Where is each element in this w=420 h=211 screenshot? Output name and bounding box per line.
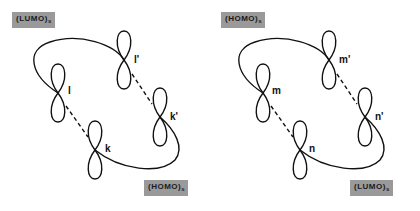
left-panel: (LUMO)s (HOMO)s l l' k k' xyxy=(0,0,210,211)
orbital-label-k: k xyxy=(105,144,111,154)
top-orbital-label: (LUMO)s xyxy=(12,12,55,28)
label-subscript: s xyxy=(181,186,185,192)
top-orbital-label: (HOMO)s xyxy=(221,12,265,28)
bottom-orbital-label: (HOMO)s xyxy=(144,180,188,196)
orbital-label-l: l xyxy=(68,86,71,96)
label-text: (HOMO) xyxy=(148,182,181,191)
orbital-label-n: n xyxy=(309,144,315,154)
label-text: (HOMO) xyxy=(225,14,258,23)
orbital-label-l-prime: l' xyxy=(134,55,139,65)
orbital-label-k-prime: k' xyxy=(170,112,178,122)
bottom-orbital-label: (LUMO)s xyxy=(350,180,393,196)
right-panel: (HOMO)s (LUMO)s m m' n n' xyxy=(205,0,415,211)
label-subscript: s xyxy=(48,18,52,24)
label-text: (LUMO) xyxy=(16,14,48,23)
orbital-label-m-prime: m' xyxy=(339,55,350,65)
orbital-label-n-prime: n' xyxy=(375,112,384,122)
label-text: (LUMO) xyxy=(354,182,386,191)
label-subscript: s xyxy=(258,18,262,24)
label-subscript: s xyxy=(386,186,390,192)
orbital-label-m: m xyxy=(272,86,281,96)
